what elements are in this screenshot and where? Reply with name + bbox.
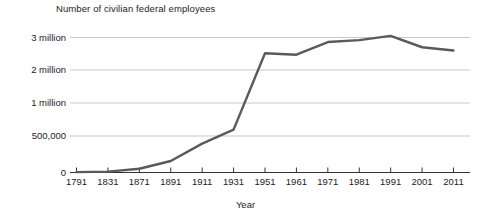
y-tick-label: 3 million [31,33,66,43]
x-tick-label: 1911 [192,177,212,187]
x-tick-label: 1871 [129,177,150,187]
y-tick-label: 500,000 [32,131,66,141]
chart-container: Number of civilian federal employees 050… [0,0,491,219]
x-tick-label: 1931 [223,177,244,187]
gridlines-group [70,38,470,137]
data-series-line [77,36,454,172]
x-tick-label: 1951 [254,177,275,187]
x-tick-label: 1891 [160,177,181,187]
x-tick-label: 1971 [317,177,338,187]
x-axis-title: Year [0,199,491,210]
x-tick-label: 1961 [286,177,307,187]
x-tick-label: 2011 [443,177,463,187]
y-tick-label: 2 million [31,65,66,75]
x-tick-label: 1831 [97,177,118,187]
x-tick-label: 1791 [66,177,87,187]
x-tick-label: 2001 [412,177,433,187]
y-tick-label: 1 million [31,98,66,108]
x-tick-label: 1991 [380,177,401,187]
x-tick-label: 1981 [349,177,370,187]
